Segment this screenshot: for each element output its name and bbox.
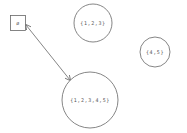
diagram-canvas: ø {1,2,3} {4,5} {1,2,3,4,5}: [0, 0, 187, 133]
node-set-12345[interactable]: {1,2,3,4,5}: [62, 72, 118, 128]
node-label: {1,2,3,4,5}: [70, 97, 110, 103]
node-empty-set[interactable]: ø: [11, 16, 26, 31]
node-set-45[interactable]: {4,5}: [140, 37, 170, 67]
node-set-123[interactable]: {1,2,3}: [74, 4, 112, 42]
edge-empty-to-union: [26, 25, 70, 80]
node-label: ø: [16, 20, 20, 26]
node-label: {4,5}: [146, 49, 164, 55]
node-label: {1,2,3}: [80, 20, 105, 26]
